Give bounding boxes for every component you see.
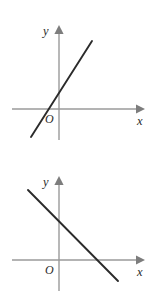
x-axis-label: x — [136, 265, 143, 279]
x-axis-arrowhead — [136, 104, 145, 113]
data-line-decreasing — [28, 190, 118, 281]
x-axis-arrowhead — [136, 255, 145, 264]
data-line-increasing — [31, 41, 92, 137]
y-axis-label: y — [41, 175, 49, 189]
y-axis-arrowhead — [54, 176, 63, 185]
x-axis-label: x — [136, 114, 143, 128]
origin-label: O — [45, 263, 54, 277]
figure-increasing-line: y x O — [0, 0, 154, 151]
origin-label: O — [45, 112, 54, 126]
y-axis-label: y — [41, 24, 49, 38]
line-graph-pair: y x O y x O — [0, 0, 154, 302]
figure-decreasing-line: y x O — [0, 151, 154, 302]
y-axis-arrowhead — [54, 25, 63, 34]
